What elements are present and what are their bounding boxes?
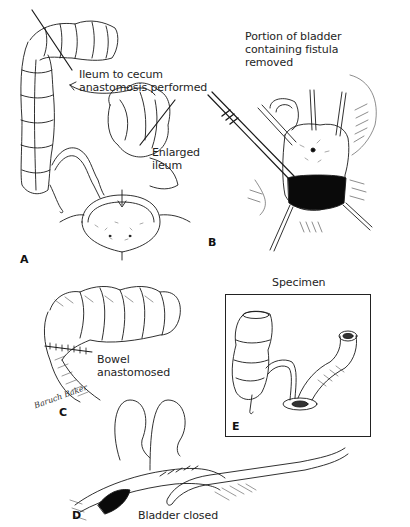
panel-letter-e: E	[232, 420, 240, 433]
label-line-1: Ileum to cecum	[79, 68, 207, 81]
panel-b-drawing	[208, 75, 376, 251]
specimen-box	[225, 294, 371, 437]
label-line-1: Portion of bladder	[245, 30, 341, 43]
label-line-1: Bowel	[97, 353, 170, 366]
label-bowel-anastomosed: Bowel anastomosed	[97, 353, 170, 379]
panel-c-drawing	[44, 286, 180, 402]
label-line-1: Enlarged	[152, 146, 200, 159]
specimen-title: Specimen	[272, 276, 326, 289]
panel-letter-c: C	[59, 406, 67, 419]
label-line-3: removed	[245, 56, 341, 69]
panel-letter-d: D	[72, 509, 81, 522]
panel-a-drawing	[21, 10, 190, 260]
label-bladder-closed: Bladder closed	[138, 509, 218, 522]
label-line-2: anastomosed	[97, 366, 170, 379]
label-enlarged-ileum: Enlarged ileum	[152, 146, 200, 172]
label-line-2: ileum	[152, 159, 200, 172]
label-line-2: containing fistula	[245, 43, 341, 56]
label-line-2: anastomosis performed	[79, 81, 207, 94]
surgical-illustration: Ileum to cecum anastomosis performed Enl…	[0, 0, 410, 527]
label-bladder-portion-removed: Portion of bladder containing fistula re…	[245, 30, 341, 69]
panel-letter-b: B	[208, 236, 216, 249]
label-ileum-cecum-anastomosis: Ileum to cecum anastomosis performed	[79, 68, 207, 94]
panel-letter-a: A	[20, 253, 29, 266]
